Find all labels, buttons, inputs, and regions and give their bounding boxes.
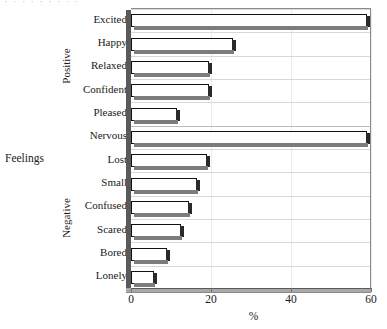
- bar-excited: [131, 14, 367, 27]
- x-tick-label-40: 40: [276, 293, 306, 305]
- category-label-pleased: Pleased: [55, 107, 127, 118]
- category-label-bored: Bored: [55, 247, 127, 258]
- vertical-gridline: [371, 9, 372, 288]
- x-axis-tick-labels: 0204060: [0, 293, 387, 309]
- horizontal-gridline: [131, 196, 370, 197]
- category-label-excited: Excited: [55, 14, 127, 25]
- bar-shadow-base: [134, 73, 210, 77]
- horizontal-gridline: [131, 172, 370, 173]
- category-label-small: Small: [55, 177, 127, 188]
- horizontal-gridline: [131, 32, 370, 33]
- category-label-relaxed: Relaxed: [55, 60, 127, 71]
- bar-shadow-base: [134, 213, 190, 217]
- x-axis-title: %: [0, 310, 387, 322]
- horizontal-gridline: [131, 266, 370, 267]
- x-tick-label-0: 0: [116, 293, 146, 305]
- bar-relaxed: [131, 61, 209, 74]
- category-label-lost: Lost: [55, 154, 127, 165]
- bar-nervous: [131, 131, 367, 144]
- bar-shadow-base: [134, 260, 168, 264]
- x-axis-line: [131, 288, 371, 289]
- bar-shadow-base: [134, 190, 198, 194]
- bar-shadow-base: [134, 166, 208, 170]
- category-label-nervous: Nervous: [55, 130, 127, 141]
- x-axis-title-text: %: [249, 310, 259, 322]
- bar-shadow-base: [134, 283, 155, 287]
- bar-happy: [131, 38, 233, 51]
- horizontal-gridline: [131, 56, 370, 57]
- bar-shadow-base: [134, 26, 368, 30]
- category-label-lonely: Lonely: [55, 270, 127, 281]
- horizontal-gridline: [131, 219, 370, 220]
- bar-lost: [131, 154, 207, 167]
- bar-shadow-base: [134, 96, 210, 100]
- horizontal-gridline: [131, 149, 370, 150]
- bar-small: [131, 178, 197, 191]
- horizontal-gridline: [131, 102, 370, 103]
- x-tick-label-20: 20: [196, 293, 226, 305]
- category-label-confused: Confused: [55, 200, 127, 211]
- horizontal-gridline: [131, 242, 370, 243]
- horizontal-gridline: [131, 79, 370, 80]
- category-label-scared: Scared: [55, 224, 127, 235]
- bar-confident: [131, 84, 209, 97]
- bar-confused: [131, 201, 189, 214]
- bar-shadow-base: [134, 236, 182, 240]
- category-label-happy: Happy: [55, 37, 127, 48]
- category-label-confident: Confident: [55, 84, 127, 95]
- bar-scared: [131, 224, 181, 237]
- x-tickmark: [131, 288, 132, 292]
- horizontal-gridline: [131, 9, 370, 10]
- x-tickmark: [211, 288, 212, 292]
- category-axis-labels: Excited Happy Relaxed Confident Pleased …: [55, 8, 127, 288]
- x-tickmark: [291, 288, 292, 292]
- bar-pleased: [131, 108, 177, 121]
- plot-area: [131, 8, 371, 288]
- bar-bored: [131, 248, 167, 261]
- horizontal-bar-chart: · · · · · · · · · Feelings Positive Nega…: [0, 0, 387, 329]
- x-tick-label-60: 60: [356, 293, 386, 305]
- cropped-caption-text: · · · · · · · · ·: [4, 0, 387, 7]
- bar-shadow-base: [134, 143, 368, 147]
- x-tickmark: [371, 288, 372, 292]
- bar-lonely: [131, 271, 154, 284]
- horizontal-gridline: [131, 126, 370, 127]
- axis-left-wall: [126, 10, 131, 290]
- bar-shadow-base: [134, 50, 234, 54]
- bar-shadow-base: [134, 120, 178, 124]
- cropped-caption-remnant: · · · · · · · · ·: [0, 0, 387, 7]
